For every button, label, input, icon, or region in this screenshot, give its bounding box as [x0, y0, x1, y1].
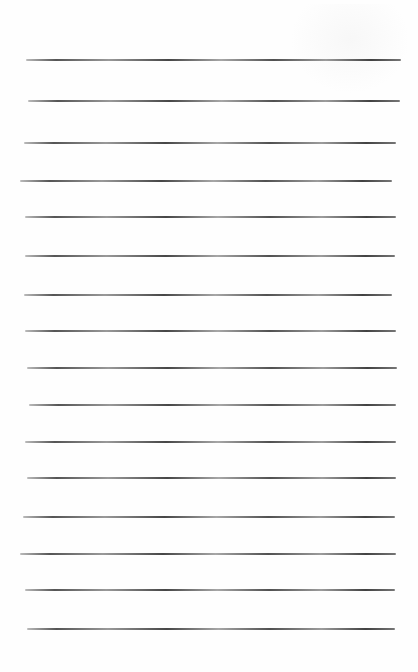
- ruled-line: [25, 441, 396, 443]
- ruled-line: [27, 367, 397, 369]
- ruled-line: [24, 142, 396, 144]
- ruled-page: [0, 0, 418, 672]
- ruled-line: [25, 589, 395, 591]
- ruled-line: [25, 255, 395, 257]
- ruled-line: [26, 59, 401, 61]
- bleed-through-smudge: [290, 4, 410, 94]
- ruled-line: [28, 100, 400, 102]
- ruled-line: [29, 404, 396, 406]
- ruled-line: [25, 330, 396, 332]
- ruled-line: [20, 553, 396, 555]
- ruled-line: [27, 477, 396, 479]
- ruled-line: [20, 180, 392, 182]
- ruled-line: [27, 628, 395, 630]
- ruled-line: [23, 516, 395, 518]
- ruled-line: [24, 294, 392, 296]
- ruled-line: [25, 216, 396, 218]
